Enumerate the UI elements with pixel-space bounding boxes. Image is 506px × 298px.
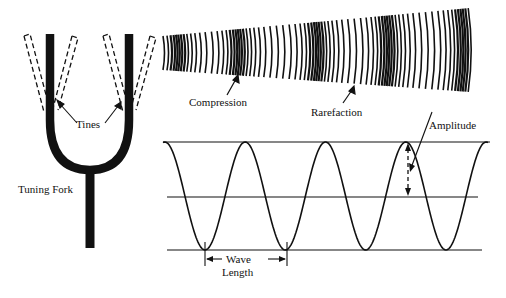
wave-label: Wave bbox=[226, 253, 251, 265]
sound-wave-diagram bbox=[0, 0, 506, 298]
tuning-fork-label: Tuning Fork bbox=[18, 183, 73, 195]
amplitude-label: Amplitude bbox=[429, 119, 476, 131]
length-label: Length bbox=[222, 266, 253, 278]
fork-body bbox=[50, 34, 129, 170]
tines-label: Tines bbox=[76, 118, 100, 130]
wave-graph bbox=[163, 112, 490, 266]
tuning-fork bbox=[24, 34, 156, 248]
rarefaction-label: Rarefaction bbox=[311, 106, 362, 118]
sound-beam bbox=[163, 8, 471, 92]
compression-label: Compression bbox=[189, 96, 247, 108]
wave-curve bbox=[163, 142, 488, 250]
